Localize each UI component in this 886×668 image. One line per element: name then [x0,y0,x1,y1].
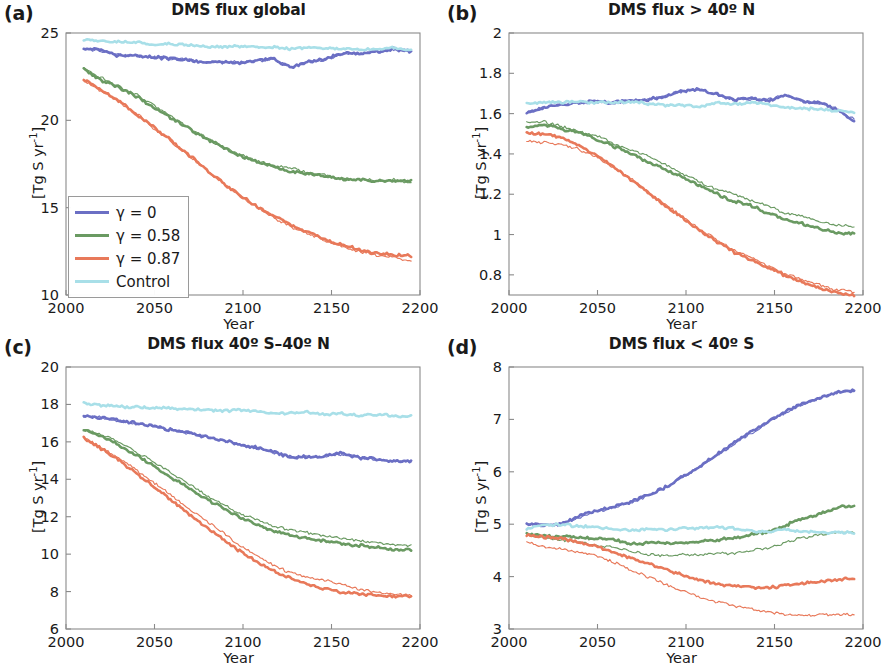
panel-b: (b) DMS flux > 40º N 2000205021002150220… [443,0,886,334]
panel-d: (d) DMS flux < 40º S 2000205021002150220… [443,334,886,668]
series-line [527,125,854,235]
y-tick-label: 3 [493,621,502,637]
series-line [527,532,854,557]
x-tick-label: 2200 [845,300,882,316]
series-line [527,391,854,526]
panel-a-xlabel: Year [0,316,443,332]
panel-d-plot: 20002050210021502200345678 [443,334,886,668]
x-tick-label: 2050 [579,300,616,316]
panel-d-xlabel: Year [443,650,886,666]
x-tick-label: 2100 [225,300,262,316]
legend-swatch [75,280,109,283]
series-line [84,416,411,462]
y-tick-label: 10 [41,287,59,303]
legend-item: γ = 0.87 [75,247,180,270]
y-tick-label: 4 [493,569,502,585]
panel-b-ylabel: [Tg S yr-1] [471,108,489,218]
legend-label: γ = 0.58 [116,227,180,245]
y-tick-label: 0.8 [479,267,502,283]
panel-c-xlabel: Year [0,650,443,666]
x-tick-label: 2200 [402,300,439,316]
panel-c-plot: 2000205021002150220068101214161820 [0,334,443,668]
series-line [84,39,411,50]
panel-a: (a) DMS flux global 20002050210021502200… [0,0,443,334]
y-tick-label: 8 [493,359,502,375]
y-tick-label: 1.8 [479,65,502,81]
legend-item: γ = 0.58 [75,224,180,247]
legend-swatch [75,234,109,237]
x-tick-label: 2150 [756,300,793,316]
x-tick-label: 2150 [313,300,350,316]
series-line [84,48,411,67]
x-tick-label: 2150 [756,634,793,650]
y-tick-label: 20 [41,359,59,375]
legend-label: γ = 0.87 [116,250,180,268]
y-tick-label: 6 [493,464,502,480]
series-line [527,132,854,296]
legend-item: γ = 0 [75,201,180,224]
y-tick-label: 8 [50,584,59,600]
plot-frame [509,33,863,295]
y-tick-label: 18 [41,396,59,412]
panel-b-plot: 200020502100215022000.811.21.41.61.82 [443,0,886,334]
series-line [527,120,854,227]
y-tick-label: 6 [50,621,59,637]
legend-swatch [75,257,109,260]
series-line [84,402,411,417]
dms-flux-figure: (a) DMS flux global 20002050210021502200… [0,0,886,668]
panel-d-ylabel: [Tg S yr-1] [471,442,489,552]
legend: γ = 0γ = 0.58γ = 0.87Control [68,196,189,298]
x-tick-label: 2050 [136,300,173,316]
y-tick-label: 2 [493,25,502,41]
panel-c: (c) DMS flux 40º S–40º N 200020502100215… [0,334,443,668]
y-tick-label: 25 [41,25,59,41]
panel-c-ylabel: [Tg S yr-1] [28,442,46,552]
x-tick-label: 2100 [225,634,262,650]
x-tick-label: 2050 [136,634,173,650]
x-tick-label: 2200 [402,634,439,650]
legend-label: Control [116,273,170,291]
series-line [84,68,411,183]
panel-a-ylabel: [Tg S yr-1] [28,108,46,218]
x-tick-label: 2050 [579,634,616,650]
series-line [84,68,411,182]
panel-a-plot: 2000205021002150220010152025 [0,0,443,334]
y-tick-label: 5 [493,516,502,532]
legend-swatch [75,211,109,214]
x-tick-label: 2150 [313,634,350,650]
series-line [84,437,411,598]
panel-b-xlabel: Year [443,316,886,332]
x-tick-label: 2000 [491,300,528,316]
series-line [527,524,854,534]
legend-label: γ = 0 [116,204,157,222]
x-tick-label: 2100 [668,634,705,650]
series-line [527,390,854,526]
legend-item: Control [75,270,180,293]
series-line [84,430,411,550]
y-tick-label: 1 [493,227,502,243]
y-tick-label: 7 [493,411,502,427]
x-tick-label: 2100 [668,300,705,316]
plot-frame [509,367,863,629]
x-tick-label: 2200 [845,634,882,650]
